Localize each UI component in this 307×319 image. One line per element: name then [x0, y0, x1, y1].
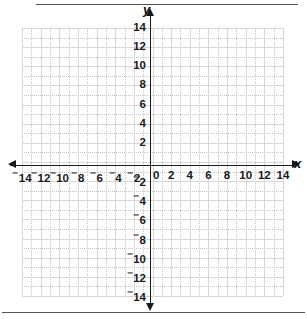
y-tick-label-4: 4: [140, 118, 146, 130]
x-axis-arrow-left-icon: [8, 160, 16, 168]
origin-tick-label: 0: [153, 170, 159, 182]
gridline-horizontal-major: [22, 200, 283, 201]
x-tick-label-14: 14: [277, 170, 290, 182]
gridline-vertical-major: [246, 28, 247, 296]
coordinate-plane-figure: x y 0 ⁻14⁻12⁻10⁻8⁻6⁻4⁻224681012142468101…: [0, 0, 307, 319]
y-tick-label-14: 14: [133, 22, 146, 34]
gridline-horizontal-major: [22, 296, 283, 297]
y-tick-label-neg-10: ⁻10: [127, 250, 146, 265]
top-divider-rule: [36, 4, 298, 5]
x-tick-label-8: 8: [224, 170, 230, 182]
y-tick-label-neg-12: ⁻12: [127, 269, 146, 284]
y-axis-label: y: [143, 2, 150, 17]
y-tick-label-neg-8: ⁻8: [133, 231, 146, 246]
x-tick-label-neg-10: ⁻10: [50, 170, 69, 185]
y-tick-label-6: 6: [140, 99, 146, 111]
y-tick-label-10: 10: [133, 61, 146, 73]
x-tick-label-neg-4: ⁻4: [109, 170, 122, 185]
x-tick-label-6: 6: [205, 170, 211, 182]
y-tick-label-8: 8: [140, 80, 146, 92]
gridline-vertical-major: [190, 28, 191, 296]
y-tick-label-neg-14: ⁻14: [127, 289, 146, 304]
x-tick-label-neg-12: ⁻12: [31, 170, 50, 185]
gridline-horizontal-major: [22, 162, 283, 163]
y-tick-label-12: 12: [133, 41, 146, 53]
x-tick-label-12: 12: [258, 170, 271, 182]
gridline-horizontal-major: [22, 219, 283, 220]
gridline-horizontal-major: [22, 258, 283, 259]
y-tick-label-2: 2: [140, 137, 146, 149]
y-tick-label-neg-6: ⁻6: [133, 212, 146, 227]
gridline-vertical-major: [171, 28, 172, 296]
gridline-vertical-major: [264, 28, 265, 296]
gridline-vertical-major: [227, 28, 228, 296]
gridline-vertical-major: [283, 28, 284, 296]
y-tick-label-neg-2: ⁻2: [133, 174, 146, 189]
bottom-divider-rule: [2, 312, 305, 313]
x-axis-line: [10, 165, 295, 166]
x-tick-label-4: 4: [187, 170, 193, 182]
y-axis-arrow-down-icon: [146, 303, 154, 311]
plot-area: [22, 28, 283, 296]
y-axis-line: [150, 12, 151, 309]
gridline-horizontal-major: [22, 239, 283, 240]
gridline-horizontal-major: [22, 277, 283, 278]
x-axis-label: x: [294, 156, 301, 171]
gridline-vertical-major: [208, 28, 209, 296]
x-tick-label-neg-6: ⁻6: [90, 170, 103, 185]
x-tick-label-neg-14: ⁻14: [12, 170, 31, 185]
y-tick-label-neg-4: ⁻4: [133, 193, 146, 208]
x-tick-label-2: 2: [168, 170, 174, 182]
x-tick-label-neg-8: ⁻8: [71, 170, 84, 185]
x-tick-label-10: 10: [239, 170, 252, 182]
